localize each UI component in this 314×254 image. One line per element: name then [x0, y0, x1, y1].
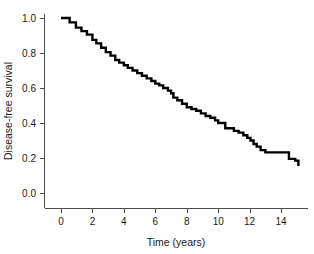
- x-tick-label: 4: [121, 216, 127, 227]
- y-axis-tick-labels: 0.00.20.40.60.81.0: [22, 13, 36, 199]
- kaplan-meier-figure: 0.00.20.40.60.81.0 02468101214 Time (yea…: [0, 0, 314, 254]
- y-tick-label: 0.6: [22, 83, 36, 94]
- survival-plot: 0.00.20.40.60.81.0 02468101214 Time (yea…: [0, 0, 314, 254]
- y-axis-title: Disease-free survival: [2, 62, 14, 160]
- x-tick-label: 10: [213, 216, 225, 227]
- x-tick-label: 14: [276, 216, 288, 227]
- y-tick-label: 0.0: [22, 188, 36, 199]
- y-tick-label: 0.2: [22, 153, 36, 164]
- x-tick-label: 8: [184, 216, 190, 227]
- x-axis-tick-labels: 02468101214: [58, 216, 287, 227]
- survival-curve-line: [61, 18, 298, 166]
- x-tick-label: 6: [153, 216, 159, 227]
- x-tick-label: 2: [90, 216, 96, 227]
- y-tick-label: 0.4: [22, 118, 36, 129]
- x-tick-label: 12: [244, 216, 256, 227]
- y-tick-label: 0.8: [22, 48, 36, 59]
- x-axis-tick-marks: [62, 209, 282, 214]
- y-tick-label: 1.0: [22, 13, 36, 24]
- y-axis-tick-marks: [40, 19, 45, 194]
- x-axis-title: Time (years): [147, 236, 206, 248]
- x-tick-label: 0: [58, 216, 64, 227]
